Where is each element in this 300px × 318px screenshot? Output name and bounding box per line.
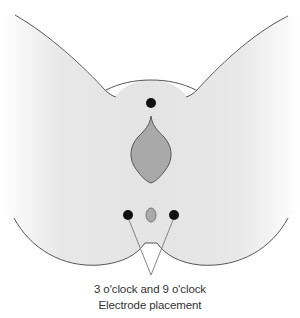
anal-oval bbox=[146, 208, 156, 222]
anatomical-diagram bbox=[0, 0, 300, 318]
electrode-dot-3-oclock bbox=[169, 210, 179, 220]
caption-line-1: 3 o'clock and 9 o'clock bbox=[0, 283, 300, 295]
electrode-dot-9-oclock bbox=[123, 210, 133, 220]
caption-line-2: Electrode placement bbox=[0, 299, 300, 311]
electrode-dot-top bbox=[146, 98, 156, 108]
